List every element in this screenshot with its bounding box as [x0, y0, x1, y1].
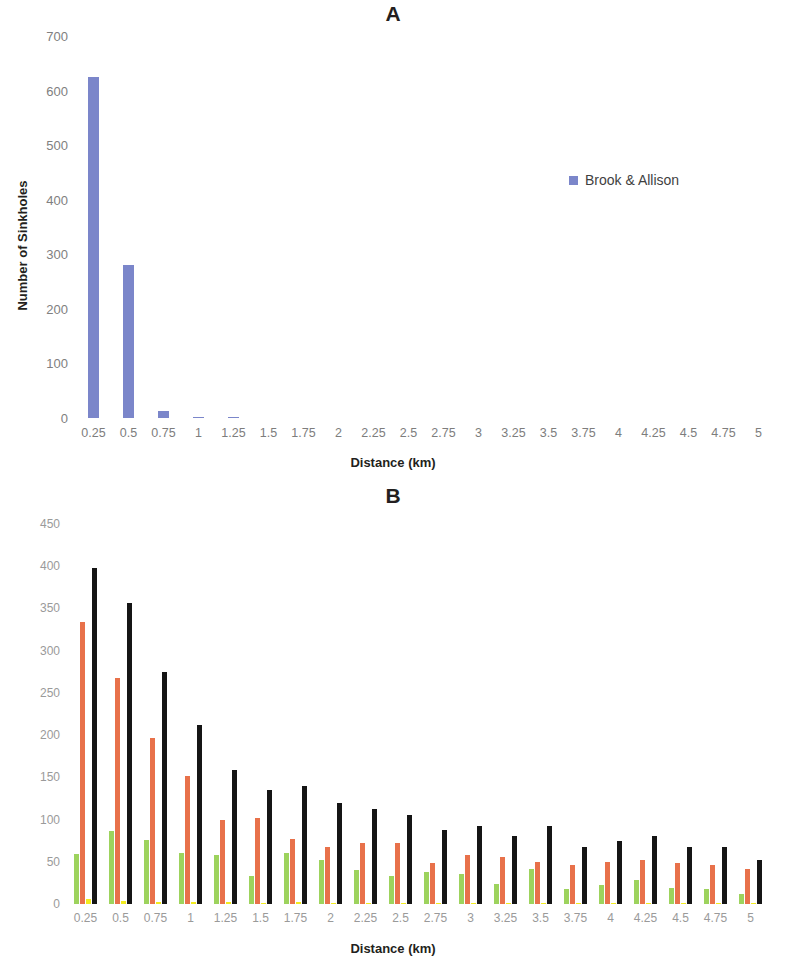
bar-vernon	[459, 874, 464, 904]
bar-group	[103, 524, 138, 904]
bar-group	[601, 36, 636, 418]
bar-group	[321, 36, 356, 418]
x-tick-label: 1.5	[251, 426, 286, 440]
bar-corps	[331, 903, 336, 904]
bar-corps	[541, 903, 546, 904]
bar-group	[733, 524, 768, 904]
bar-group	[531, 36, 566, 418]
bar-fdot	[570, 865, 575, 904]
bar-brook-allison	[193, 417, 204, 418]
y-tick-label: 400	[40, 559, 60, 573]
bar-group	[496, 36, 531, 418]
x-tick-label: 1	[173, 911, 208, 925]
bar-vernon	[424, 872, 429, 904]
bar-group	[453, 524, 488, 904]
x-tick-label: 3	[453, 911, 488, 925]
bar-vernon	[214, 855, 219, 904]
panel-b-plot-area: 450400350300250200150100500 0.250.50.751…	[68, 524, 768, 904]
bar-corps	[191, 902, 196, 904]
y-tick-label: 600	[46, 83, 68, 98]
bar-fdot	[80, 622, 85, 904]
x-tick-label: 4.5	[663, 911, 698, 925]
bar-brook-allison	[88, 77, 99, 418]
panel-a-bar-groups	[76, 36, 776, 418]
bar-group	[636, 36, 671, 418]
bar-corps	[226, 902, 231, 904]
bar-combined	[617, 841, 622, 904]
bar-fdot	[325, 847, 330, 904]
x-tick-label: 2	[321, 426, 356, 440]
bar-group	[76, 36, 111, 418]
bar-vernon	[389, 876, 394, 904]
bar-brook-allison	[158, 411, 169, 418]
bar-vernon	[144, 840, 149, 904]
bar-fdot	[185, 776, 190, 904]
bar-vernon	[739, 894, 744, 904]
bar-combined	[162, 672, 167, 904]
y-tick-label: 500	[46, 138, 68, 153]
bar-corps	[121, 901, 126, 904]
y-tick-label: 0	[53, 897, 60, 911]
x-tick-label: 1	[181, 426, 216, 440]
bar-vernon	[249, 876, 254, 904]
y-tick-label: 100	[40, 813, 60, 827]
bar-combined	[547, 826, 552, 904]
bar-fdot	[640, 860, 645, 904]
x-tick-label: 4.5	[671, 426, 706, 440]
bar-group	[313, 524, 348, 904]
bar-group	[418, 524, 453, 904]
bar-combined	[407, 815, 412, 904]
bar-group	[558, 524, 593, 904]
bar-group	[138, 524, 173, 904]
x-tick-label: 5	[733, 911, 768, 925]
bar-combined	[92, 568, 97, 904]
bar-group	[698, 524, 733, 904]
bar-group	[286, 36, 321, 418]
x-tick-label: 1.5	[243, 911, 278, 925]
bar-vernon	[109, 831, 114, 904]
bar-combined	[722, 847, 727, 904]
x-tick-label: 2.5	[391, 426, 426, 440]
bar-group	[488, 524, 523, 904]
bar-group	[181, 36, 216, 418]
bar-group	[356, 36, 391, 418]
bar-corps	[156, 902, 161, 904]
bar-vernon	[634, 880, 639, 904]
y-tick-label: 300	[40, 644, 60, 658]
bar-vernon	[599, 885, 604, 904]
x-tick-label: 2.5	[383, 911, 418, 925]
y-tick-label: 200	[40, 728, 60, 742]
bar-combined	[337, 803, 342, 904]
bar-group	[278, 524, 313, 904]
x-tick-label: 2.25	[356, 426, 391, 440]
bar-fdot	[395, 843, 400, 904]
y-tick-label: 350	[40, 601, 60, 615]
bar-group	[111, 36, 146, 418]
panel-a-letter: A	[0, 2, 786, 26]
bar-fdot	[430, 863, 435, 904]
bar-vernon	[704, 889, 709, 904]
bar-fdot	[150, 738, 155, 904]
y-tick-label: 300	[46, 247, 68, 262]
bar-corps	[646, 903, 651, 904]
bar-combined	[267, 790, 272, 904]
x-tick-label: 2.75	[418, 911, 453, 925]
y-tick-label: 400	[46, 192, 68, 207]
bar-corps	[86, 899, 91, 904]
bar-vernon	[74, 854, 79, 904]
bar-corps	[506, 903, 511, 904]
bar-group	[663, 524, 698, 904]
panel-b-letter: B	[0, 484, 786, 508]
x-tick-label: 3.5	[531, 426, 566, 440]
legend-label: Brook & Allison	[585, 172, 679, 188]
bar-fdot	[675, 863, 680, 904]
bar-combined	[197, 725, 202, 904]
bar-brook-allison	[123, 265, 134, 418]
x-tick-label: 0.75	[146, 426, 181, 440]
bar-corps	[716, 903, 721, 904]
bar-fdot	[290, 839, 295, 904]
bar-group	[671, 36, 706, 418]
bar-group	[216, 36, 251, 418]
bar-corps	[611, 903, 616, 904]
bar-group	[566, 36, 601, 418]
